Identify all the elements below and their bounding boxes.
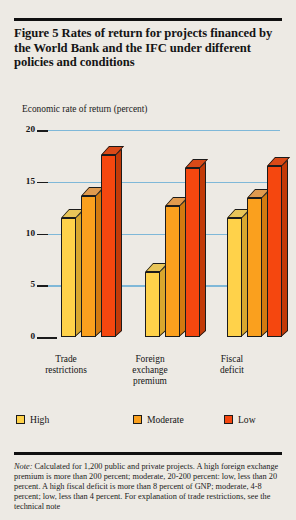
bar-side-face: [281, 160, 288, 337]
bar-front-face: [227, 218, 242, 337]
bar-front-face: [165, 206, 180, 337]
bar[interactable]: [165, 206, 180, 337]
bar-front-face: [247, 198, 262, 337]
bar-front-face: [145, 272, 160, 337]
bar-front-face: [81, 196, 96, 337]
legend-item[interactable]: High: [16, 414, 49, 425]
legend-item[interactable]: Low: [224, 414, 256, 425]
y-tick-label: 5: [18, 279, 35, 289]
bar-front-face: [61, 218, 76, 337]
note-text: Calculated for 1,200 public and private …: [14, 462, 278, 511]
y-tick-label: 20: [18, 124, 35, 134]
category-label: Foreignexchangepremium: [112, 354, 188, 387]
legend-label: Moderate: [147, 414, 184, 425]
bar[interactable]: [185, 168, 200, 337]
bar[interactable]: [101, 155, 116, 337]
category-label-line: Foreign: [112, 354, 188, 365]
y-tick-label: 15: [18, 176, 35, 186]
chart-plot-area: 05101520 TraderestrictionsForeignexchang…: [18, 118, 280, 350]
figure-title: Figure 5 Rates of return for projects fi…: [14, 26, 284, 70]
bar-series-container: [37, 118, 280, 350]
category-label-line: restrictions: [28, 365, 104, 376]
category-label-line: deficit: [194, 365, 270, 376]
bar[interactable]: [227, 218, 242, 337]
legend-item[interactable]: Moderate: [133, 414, 184, 425]
bar[interactable]: [267, 166, 282, 337]
y-axis-title: Economic rate of return (percent): [22, 104, 147, 114]
y-tick-label: 0: [18, 331, 35, 341]
figure-note: Note: Calculated for 1,200 public and pr…: [14, 462, 284, 512]
bottom-rule: [14, 452, 282, 455]
bar-side-face: [199, 162, 206, 337]
bar-front-face: [185, 168, 200, 337]
chart-legend: HighModerateLow: [16, 414, 284, 430]
legend-label: High: [30, 414, 49, 425]
bar-group: [227, 118, 289, 350]
bar[interactable]: [81, 196, 96, 337]
category-label-line: Fiscal: [194, 354, 270, 365]
category-label-line: Trade: [28, 354, 104, 365]
bar[interactable]: [61, 218, 76, 337]
category-label-line: exchange: [112, 365, 188, 376]
category-label: Traderestrictions: [28, 354, 104, 376]
y-tick-label: 10: [18, 228, 35, 238]
bar-side-face: [115, 149, 122, 337]
bar[interactable]: [145, 272, 160, 337]
bar[interactable]: [247, 198, 262, 337]
legend-swatch: [224, 415, 233, 424]
bar-front-face: [101, 155, 116, 337]
legend-swatch: [16, 415, 25, 424]
bar-group: [61, 118, 123, 350]
top-rule: [14, 18, 282, 21]
figure-panel: Figure 5 Rates of return for projects fi…: [0, 0, 296, 520]
legend-label: Low: [238, 414, 256, 425]
note-label: Note:: [14, 462, 32, 471]
legend-swatch: [133, 415, 142, 424]
bar-front-face: [267, 166, 282, 337]
bar-group: [145, 118, 207, 350]
category-label: Fiscaldeficit: [194, 354, 270, 376]
category-label-line: premium: [112, 376, 188, 387]
